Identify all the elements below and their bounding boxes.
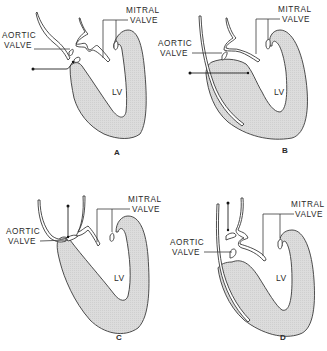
pointer-tip [72, 61, 74, 63]
mitral-valve-label: MITRAL [278, 5, 312, 14]
lv-label: LV [276, 273, 287, 283]
panel-letter: C [116, 333, 122, 342]
pointer-line [33, 63, 72, 69]
panel-c: MITRAL VALVE AORTIC VALVE LV C [6, 195, 162, 342]
aorta-wall-left [38, 200, 66, 242]
pointer-tip [67, 236, 69, 238]
pointer-tip [227, 229, 229, 231]
figure-canvas: MITRAL VALVE AORTIC VALVE LV A MITRAL VA… [0, 0, 327, 351]
aortic-valve-leaflet [74, 57, 80, 62]
panel-a: MITRAL VALVE AORTIC VALVE LV A [2, 6, 160, 157]
mitral-valve-label: VALVE [282, 15, 310, 24]
lv-wall [218, 230, 314, 336]
lv-wall [57, 216, 149, 334]
aorta-wall-left [36, 12, 70, 60]
aortic-valve-label: VALVE [4, 41, 32, 50]
heart-diagram: MITRAL VALVE AORTIC VALVE LV A MITRAL VA… [0, 0, 327, 351]
mitral-valve-label: MITRAL [291, 200, 325, 209]
aortic-valve-leaflet [69, 49, 73, 55]
aortic-valve-label: VALVE [160, 49, 188, 58]
panel-d: MITRAL VALVE AORTIC VALVE LV D [170, 198, 325, 342]
aorto-mitral-curtain [224, 18, 260, 62]
lv-label: LV [112, 87, 123, 97]
mitral-valve-leaflet [278, 239, 282, 249]
aortic-valve-label: AORTIC [6, 227, 40, 236]
panel-letter: A [114, 148, 120, 157]
mitral-valve-label: VALVE [295, 210, 323, 219]
lv-label: LV [114, 273, 125, 283]
aortic-valve-leaflet [226, 233, 236, 240]
mitral-valve-leaflet [110, 233, 114, 241]
aorto-mitral-curtain [236, 198, 266, 261]
pointer-tip [247, 72, 249, 74]
mitral-valve-label: MITRAL [126, 6, 160, 15]
panel-b: MITRAL VALVE AORTIC VALVE LV B [158, 5, 312, 155]
aortic-valve-label: VALVE [172, 248, 200, 257]
mitral-valve-label: VALVE [132, 205, 160, 214]
lv-wall [206, 30, 307, 139]
aorto-mitral-curtain [76, 196, 100, 246]
mitral-valve-leaflet [114, 41, 118, 50]
aortic-valve-label: AORTIC [170, 238, 204, 247]
mitral-valve-label: VALVE [130, 16, 158, 25]
aorto-mitral-curtain [76, 18, 110, 62]
mitral-valve-label: MITRAL [128, 195, 162, 204]
aortic-valve-label: AORTIC [2, 31, 36, 40]
panel-letter: D [280, 333, 286, 342]
aortic-valve-leaflet [230, 249, 236, 258]
panel-letter: B [282, 146, 288, 155]
aortic-valve-label: AORTIC [158, 39, 192, 48]
lv-label: LV [274, 87, 285, 97]
mitral-valve-leaflet [266, 39, 270, 49]
aortic-valve-label: VALVE [8, 237, 36, 246]
